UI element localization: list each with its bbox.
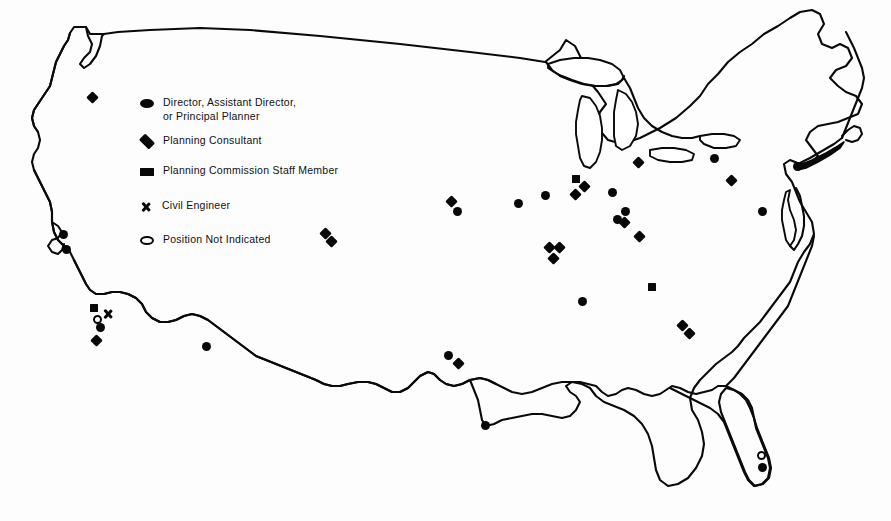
- filled-diamond-marker: [90, 334, 103, 347]
- filled-circle-marker: [608, 188, 617, 197]
- filled-circle-marker: [621, 207, 630, 216]
- filled-circle-marker: [541, 191, 550, 200]
- filled-diamond-marker: [725, 174, 738, 187]
- filled-circle-marker: [59, 230, 68, 239]
- filled-diamond-marker: [452, 357, 465, 370]
- us-distribution-map-figure: Director, Assistant Director, or Princip…: [0, 0, 891, 521]
- filled-square-marker: [90, 304, 98, 312]
- filled-circle-marker: [758, 463, 767, 472]
- filled-diamond-marker: [553, 241, 566, 254]
- filled-circle-marker: [793, 162, 802, 171]
- filled-circle-marker: [96, 323, 105, 332]
- open-circle-marker: [757, 451, 766, 460]
- filled-circle-marker: [202, 342, 211, 351]
- filled-circle-marker: [62, 245, 71, 254]
- filled-circle-marker: [758, 207, 767, 216]
- filled-square-marker: [572, 175, 580, 183]
- filled-diamond-marker: [632, 156, 645, 169]
- filled-diamond-marker: [445, 195, 458, 208]
- x-mark-marker: [103, 309, 114, 320]
- filled-circle-marker: [710, 154, 719, 163]
- filled-circle-marker: [453, 207, 462, 216]
- filled-diamond-marker: [86, 91, 99, 104]
- filled-square-marker: [648, 283, 656, 291]
- filled-circle-marker: [514, 199, 523, 208]
- map-marker-layer: [0, 0, 891, 521]
- filled-circle-marker: [481, 421, 490, 430]
- filled-circle-marker: [444, 351, 453, 360]
- filled-diamond-marker: [569, 188, 582, 201]
- filled-diamond-marker: [633, 230, 646, 243]
- filled-circle-marker: [578, 297, 587, 306]
